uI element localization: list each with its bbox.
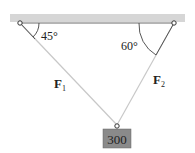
- ceiling-bar: [10, 14, 185, 22]
- angle-left-label: 45°: [41, 29, 58, 43]
- weight-label: 300: [107, 132, 127, 147]
- angle-arc-left: [33, 23, 39, 37]
- pivot-left: [18, 21, 22, 25]
- rope-right-top: [156, 23, 174, 55]
- force-right-label: F2: [153, 72, 165, 89]
- rope-left-top: [20, 23, 35, 39]
- angle-arc-right: [139, 23, 156, 55]
- force-diagram: 300 45° 60° F1 F2: [0, 0, 195, 153]
- angle-right-label: 60°: [121, 39, 138, 53]
- pivot-right: [172, 21, 176, 25]
- junction-ring: [115, 124, 119, 128]
- force-left-label: F1: [54, 76, 66, 93]
- diagram-canvas: 300 45° 60° F1 F2: [0, 0, 195, 153]
